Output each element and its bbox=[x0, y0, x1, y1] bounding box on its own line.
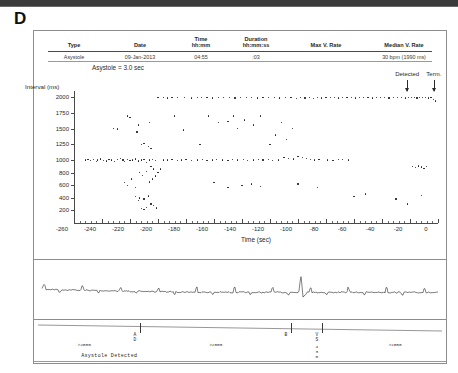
marker-baseline-line bbox=[38, 325, 442, 331]
scatter-point bbox=[421, 166, 422, 167]
scatter-point bbox=[227, 187, 228, 188]
scatter-point bbox=[177, 160, 178, 161]
scatter-point bbox=[93, 159, 94, 160]
scatter-point bbox=[90, 160, 91, 161]
x-minor-tick bbox=[113, 221, 114, 223]
scatter-point bbox=[279, 97, 280, 98]
scatter-point bbox=[290, 97, 291, 98]
x-minor-tick bbox=[85, 221, 86, 223]
panel-letter: D bbox=[14, 9, 27, 29]
scatter-point bbox=[197, 97, 198, 98]
scatter-point bbox=[143, 143, 144, 144]
scatter-point bbox=[222, 159, 223, 160]
scatter-point bbox=[425, 97, 426, 98]
scatter-point bbox=[143, 159, 144, 160]
x-minor-tick bbox=[292, 221, 293, 223]
scatter-point bbox=[310, 159, 311, 160]
y-axis-label: Interval (ms) bbox=[25, 83, 59, 90]
scatter-point bbox=[213, 182, 214, 183]
scatter-point bbox=[108, 159, 109, 160]
scatter-point bbox=[428, 97, 429, 98]
scatter-point bbox=[150, 148, 151, 149]
y-tick-label: 800 bbox=[34, 170, 69, 176]
scatter-point bbox=[243, 159, 244, 160]
scatter-point bbox=[146, 171, 147, 172]
table-header-med_v_rate: Median V. Rate bbox=[359, 42, 449, 48]
y-axis-line bbox=[74, 91, 75, 224]
x-minor-tick bbox=[416, 221, 417, 223]
scatter-point bbox=[418, 165, 419, 166]
scatter-point bbox=[419, 97, 420, 98]
y-tick-label: 600 bbox=[34, 182, 69, 188]
x-minor-tick bbox=[203, 221, 204, 223]
x-minor-tick bbox=[124, 221, 125, 223]
egm-separator-bottom bbox=[34, 319, 446, 320]
interval-scatter-plot: Interval (ms) 20040060080010001250150017… bbox=[34, 83, 446, 243]
scatter-point bbox=[244, 119, 245, 120]
scatter-point bbox=[313, 98, 314, 99]
scatter-point bbox=[332, 160, 333, 161]
scatter-point bbox=[321, 97, 322, 98]
scatter-point bbox=[183, 129, 184, 130]
scatter-point bbox=[157, 97, 158, 98]
scatter-point bbox=[346, 97, 347, 98]
episode-summary-table: TypeDateTimehh:mmDurationhh:mm:ssMax V. … bbox=[34, 33, 446, 67]
scatter-point bbox=[262, 97, 263, 98]
x-tick-label: -100 bbox=[274, 226, 298, 232]
scatter-point bbox=[411, 97, 412, 98]
scatter-point bbox=[156, 207, 157, 208]
y-tick-label: 1750 bbox=[34, 110, 69, 116]
scatter-point bbox=[85, 159, 86, 160]
scatter-point bbox=[208, 115, 209, 116]
x-tick-mark bbox=[438, 219, 439, 223]
x-tick-mark bbox=[270, 219, 271, 223]
x-minor-tick bbox=[332, 221, 333, 223]
y-tick-mark bbox=[71, 160, 74, 161]
scatter-point bbox=[171, 159, 172, 160]
marker-tick-ad bbox=[140, 323, 141, 333]
scatter-point bbox=[268, 97, 269, 98]
x-tick-mark bbox=[410, 219, 411, 223]
scatter-point bbox=[129, 117, 130, 118]
scatter-point bbox=[297, 183, 298, 184]
scatter-point bbox=[253, 124, 254, 125]
scatter-point bbox=[359, 97, 360, 98]
scatter-point bbox=[191, 160, 192, 161]
scatter-point bbox=[251, 97, 252, 98]
table-cell-med_v_rate: 30 bpm (1990 ms) bbox=[359, 54, 449, 60]
scatter-point bbox=[430, 97, 431, 98]
x-tick-label: -40 bbox=[358, 226, 382, 232]
scatter-point bbox=[111, 159, 112, 160]
x-minor-tick bbox=[399, 221, 400, 223]
table-header-rule bbox=[48, 51, 432, 52]
x-minor-tick bbox=[304, 221, 305, 223]
scatter-point bbox=[293, 158, 294, 159]
marker-label-ad: D bbox=[130, 338, 140, 343]
egm-waveform bbox=[34, 263, 446, 319]
y-tick-label: 2000 bbox=[34, 94, 69, 100]
scatter-point bbox=[216, 159, 217, 160]
x-tick-label: -80 bbox=[302, 226, 326, 232]
scatter-point bbox=[131, 178, 132, 179]
scatter-point bbox=[302, 157, 303, 158]
x-minor-tick bbox=[388, 221, 389, 223]
scatter-point bbox=[138, 200, 139, 201]
scatter-point bbox=[184, 97, 185, 98]
scatter-point bbox=[127, 185, 128, 186]
scatter-point bbox=[153, 168, 154, 169]
scatter-point bbox=[260, 115, 261, 116]
x-minor-tick bbox=[180, 221, 181, 223]
scatter-point bbox=[338, 159, 339, 160]
x-tick-label: -60 bbox=[330, 226, 354, 232]
scatter-point bbox=[258, 159, 259, 160]
scatter-point bbox=[223, 97, 224, 98]
scatter-point bbox=[355, 97, 356, 98]
x-minor-tick bbox=[96, 221, 97, 223]
x-minor-tick bbox=[169, 221, 170, 223]
x-minor-tick bbox=[427, 221, 428, 223]
x-tick-label: -240 bbox=[78, 226, 102, 232]
scatter-point bbox=[212, 97, 213, 98]
x-minor-tick bbox=[147, 221, 148, 223]
scatter-point bbox=[317, 187, 318, 188]
scatter-point bbox=[103, 160, 104, 161]
